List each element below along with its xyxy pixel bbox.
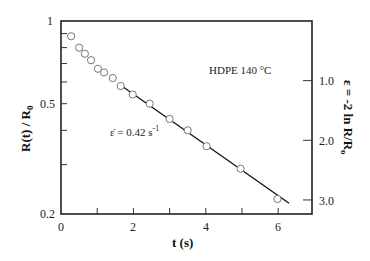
svg-text:ε = -2 ln R/Ro: ε = -2 ln R/Ro [339, 80, 356, 155]
x-tick-0: 0 [58, 220, 64, 234]
y-right-title-sub: o [339, 150, 349, 155]
y-right-tick-3.0: 3.0 [319, 194, 334, 208]
strain-rate-annotation: ε̇ = 0.42 s-1 [110, 124, 159, 138]
material-annotation: HDPE 140 °C [209, 64, 271, 76]
y-right-tick-2.0: 2.0 [319, 134, 334, 148]
y-left-tick-0.2: 0.2 [40, 207, 55, 221]
data-point [117, 82, 124, 89]
strain-rate-text: ε̇ = 0.42 s [110, 126, 153, 138]
data-point [237, 165, 244, 172]
y-left-axis-title: R(t) / R0 [18, 105, 35, 152]
data-point [146, 100, 153, 107]
data-point [203, 143, 210, 150]
data-point [76, 44, 83, 51]
y-left-title-sub: 0 [25, 105, 35, 110]
data-point [129, 91, 136, 98]
chart: 1 0.5 0.2 0 2 4 6 1.0 2.0 3.0 t (s) R(t)… [0, 0, 370, 261]
x-tick-6: 6 [275, 220, 281, 234]
y-right-axis-title: ε = -2 ln R/Ro [339, 80, 356, 155]
y-left-tick-1: 1 [47, 14, 53, 28]
data-point [184, 127, 191, 134]
data-point [81, 50, 88, 57]
plot-frame [61, 21, 312, 214]
x-tick-4: 4 [203, 220, 209, 234]
data-point [109, 74, 116, 81]
y-left-tick-0.5: 0.5 [40, 97, 55, 111]
axis-ticks [61, 34, 312, 214]
y-right-tick-1.0: 1.0 [319, 74, 334, 88]
strain-rate-exponent: -1 [153, 124, 160, 133]
data-point [87, 57, 94, 64]
data-point [100, 69, 107, 76]
data-point [166, 115, 173, 122]
data-point [68, 33, 75, 40]
x-axis-title: t (s) [172, 235, 193, 250]
data-point [274, 195, 281, 202]
y-left-title-text: R(t) / R [18, 110, 33, 152]
data-points [68, 33, 282, 203]
svg-text:R(t) / R0: R(t) / R0 [18, 105, 35, 152]
x-tick-2: 2 [130, 220, 136, 234]
y-right-title-text: ε = -2 ln R/R [341, 80, 356, 151]
